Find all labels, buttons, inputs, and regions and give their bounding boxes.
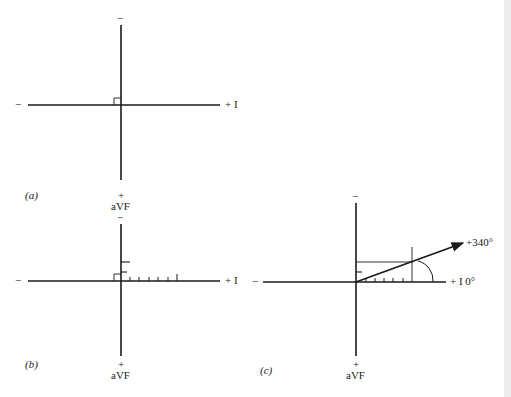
panel-c-right-label: + I 0° — [450, 276, 475, 287]
hexaxial-lead-diagram — [0, 0, 511, 397]
panel-b-bottom-label: aVF — [111, 370, 130, 381]
panel-c-vector-label: +340° — [466, 237, 493, 248]
panel-c-bottom-label: aVF — [346, 370, 365, 381]
right-angle-mark — [114, 274, 121, 281]
panel-a-top-sign: − — [117, 13, 123, 24]
panel-b-caption: (b) — [25, 359, 38, 370]
panel-a-right-label: + I — [225, 99, 238, 110]
mean-axis-vector-arrow — [356, 243, 463, 282]
panel-a-caption: (a) — [25, 190, 38, 201]
panel-a — [28, 25, 220, 180]
panel-b-top-sign: − — [117, 212, 123, 223]
panel-c-top-sign: − — [352, 191, 358, 202]
right-angle-mark — [114, 98, 121, 105]
lead-aVF-ticks — [121, 262, 130, 272]
page-edge-shadow — [504, 0, 511, 397]
panel-b — [28, 224, 220, 356]
panel-c-caption: (c) — [260, 365, 272, 376]
panel-b-left-sign: − — [15, 275, 21, 286]
angle-arc — [418, 261, 433, 282]
panel-c — [263, 203, 463, 356]
panel-b-right-label: + I — [225, 275, 238, 286]
lead-I-ticks — [130, 274, 177, 281]
panel-c-left-sign: − — [252, 276, 258, 287]
panel-a-left-sign: − — [15, 99, 21, 110]
